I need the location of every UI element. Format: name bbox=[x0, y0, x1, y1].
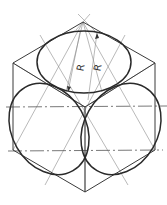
isometric-cube-drawing: R R bbox=[0, 0, 167, 205]
right-face-ellipse bbox=[65, 69, 167, 189]
top-face-ellipse bbox=[37, 31, 131, 93]
cube-inner-edges bbox=[13, 63, 155, 192]
radius-label-1: R bbox=[74, 63, 86, 72]
construction-lines bbox=[13, 14, 155, 192]
radius-label-2: R bbox=[91, 63, 103, 72]
